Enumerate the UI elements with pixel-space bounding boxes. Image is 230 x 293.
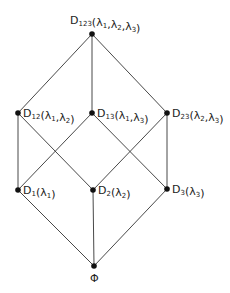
edge-d123-d12 <box>18 34 92 113</box>
node-d3 <box>164 186 170 192</box>
edge-d2-phi <box>93 190 94 266</box>
lattice-diagram: D123(λ1,λ2,λ3)D12(λ1,λ2)D13(λ1,λ3)D23(λ2… <box>0 0 230 293</box>
node-phi <box>91 263 97 269</box>
node-d2 <box>90 187 96 193</box>
edges <box>18 34 167 266</box>
node-d13 <box>89 110 95 116</box>
label-d123: D123(λ1,λ2,λ3) <box>70 14 140 35</box>
label-d23: D23(λ2,λ3) <box>172 107 223 126</box>
node-d1 <box>15 187 21 193</box>
label-d3: D3(λ3) <box>172 183 205 200</box>
edge-d1-phi <box>18 190 94 266</box>
node-d123 <box>89 31 95 37</box>
nodes <box>15 31 170 269</box>
node-d23 <box>164 110 170 116</box>
edge-d23-d2 <box>93 113 167 190</box>
label-d1: D1(λ1) <box>23 184 56 201</box>
label-d13: D13(λ1,λ3) <box>97 107 148 126</box>
label-phi: Φ <box>90 272 99 285</box>
label-d12: D12(λ1,λ2) <box>23 107 74 126</box>
label-d2: D2(λ2) <box>98 184 131 201</box>
edge-d123-d23 <box>92 34 167 113</box>
node-d12 <box>15 110 21 116</box>
